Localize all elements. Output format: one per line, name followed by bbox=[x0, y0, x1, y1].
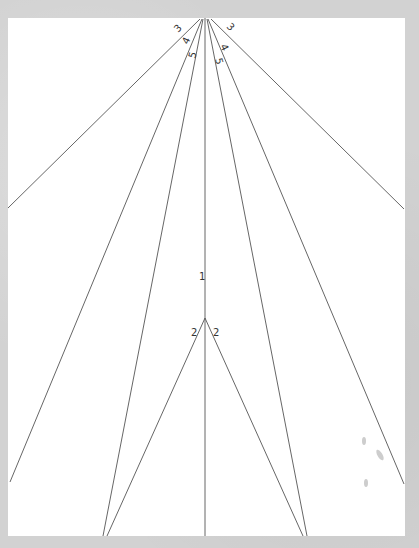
line-3-right bbox=[211, 19, 404, 209]
lines-group bbox=[8, 18, 404, 536]
line-3-left bbox=[8, 19, 200, 208]
line-4-left bbox=[10, 19, 202, 482]
line-label: 4 bbox=[218, 42, 231, 52]
line-label: 2 bbox=[213, 327, 219, 338]
line-2-left bbox=[107, 318, 205, 536]
line-drawing: 334455122 bbox=[0, 0, 419, 548]
line-label: 3 bbox=[172, 22, 184, 34]
line-4-right bbox=[208, 19, 404, 484]
line-label: 3 bbox=[225, 21, 237, 33]
line-label: 1 bbox=[199, 271, 205, 282]
smudge-marks bbox=[362, 437, 385, 487]
line-5-right bbox=[207, 19, 307, 536]
line-label: 5 bbox=[213, 57, 225, 66]
line-label: 4 bbox=[180, 35, 193, 45]
line-5-left bbox=[103, 19, 203, 536]
line-label: 2 bbox=[191, 327, 197, 338]
line-2-right bbox=[205, 318, 303, 536]
